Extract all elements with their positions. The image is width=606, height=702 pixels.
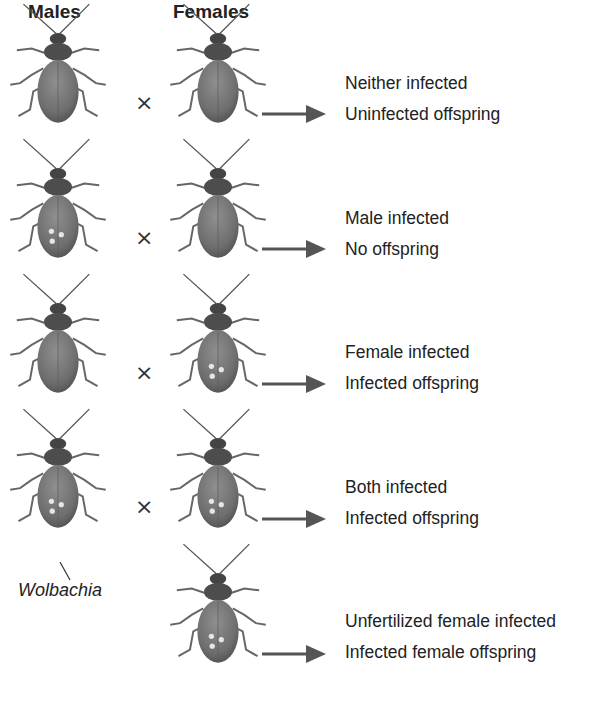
female-beetle-infected-unfertilized [158,526,278,666]
male-beetle-infected [0,121,118,261]
result-text: Infected offspring [345,368,479,399]
condition-text: Both infected [345,472,479,503]
condition-text: Unfertilized female infected [345,606,556,637]
wolbachia-label: Wolbachia [18,580,102,601]
condition-text: Male infected [345,203,449,234]
result-label-2: Male infected No offspring [345,203,449,265]
condition-text: Neither infected [345,68,500,99]
result-label-3: Female infected Infected offspring [345,337,479,399]
condition-text: Female infected [345,337,479,368]
result-text: Infected offspring [345,503,479,534]
result-label-1: Neither infected Uninfected offspring [345,68,500,130]
male-beetle-uninfected [0,0,118,126]
cross-icon: × [135,360,153,385]
male-beetle-infected [0,391,118,531]
result-text: No offspring [345,234,449,265]
result-label-4: Both infected Infected offspring [345,472,479,534]
result-text: Uninfected offspring [345,99,500,130]
cross-icon: × [135,225,153,250]
arrow-right-icon [262,644,328,664]
female-beetle-infected [158,256,278,396]
cross-icon: × [135,90,153,115]
result-label-5: Unfertilized female infected Infected fe… [345,606,556,668]
female-beetle-infected [158,391,278,531]
wolbachia-pointer-line [58,562,78,582]
female-beetle-uninfected [158,0,278,126]
male-beetle-uninfected [0,256,118,396]
female-beetle-uninfected [158,121,278,261]
cross-icon: × [135,494,153,519]
result-text: Infected female offspring [345,637,556,668]
